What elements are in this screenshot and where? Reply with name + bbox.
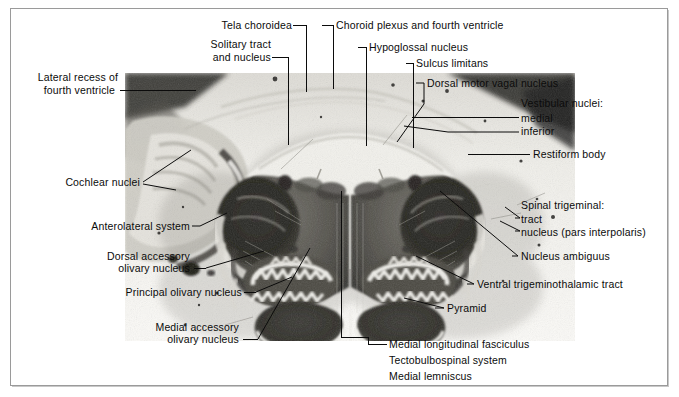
label-anterolateral-system: Anterolateral system: [40, 220, 190, 233]
label-lateral-recess-line2: fourth ventricle: [10, 84, 115, 97]
label-dorsal-accessory-line1: Dorsal accessory: [44, 250, 190, 263]
label-restiform-body: Restiform body: [533, 148, 606, 161]
label-dorsal-motor-vagal-nucleus: Dorsal motor vagal nucleus: [427, 77, 558, 90]
label-ventral-trigeminothalamic-tract: Ventral trigeminothalamic tract: [477, 278, 623, 291]
label-lateral-recess-line1: Lateral recess of: [10, 71, 118, 84]
label-tela-choroidea: Tela choroidea: [150, 19, 292, 32]
label-principal-olivary-nucleus: Principal olivary nucleus: [44, 286, 242, 299]
label-sulcus-limitans: Sulcus limitans: [416, 57, 488, 70]
label-pyramid: Pyramid: [447, 302, 487, 315]
specimen-photograph: [125, 73, 575, 341]
label-vestibular-inferior: inferior: [521, 125, 554, 138]
label-spinal-trigeminal-tract: tract: [521, 213, 542, 226]
label-choroid-plexus: Choroid plexus and fourth ventricle: [336, 19, 504, 32]
label-medial-accessory-line1: Medial accessory: [90, 321, 239, 334]
label-dorsal-accessory-line2: olivary nucleus: [44, 262, 190, 275]
label-spinal-trigeminal-nucleus: nucleus (pars interpolaris): [521, 226, 646, 239]
label-hypoglossal-nucleus: Hypoglossal nucleus: [369, 41, 468, 54]
label-vestibular-nuclei-header: Vestibular nuclei:: [521, 97, 603, 109]
label-nucleus-ambiguus: Nucleus ambiguus: [521, 250, 610, 263]
label-medial-longitudinal-fasciculus: Medial longitudinal fasciculus: [389, 338, 530, 351]
label-solitary-tract-line1: Solitary tract: [140, 38, 271, 51]
anatomical-plate: Tela choroidea Solitary tract and nucleu…: [0, 0, 679, 397]
label-vestibular-medial: medial: [521, 112, 553, 125]
label-medial-accessory-line2: olivary nucleus: [90, 333, 239, 346]
label-spinal-trigeminal-header: Spinal trigeminal:: [521, 199, 604, 211]
label-solitary-tract-line2: and nucleus: [140, 51, 271, 64]
label-cochlear-nuclei: Cochlear nuclei: [18, 176, 140, 189]
label-tectobulbospinal-system: Tectobulbospinal system: [389, 354, 507, 367]
label-medial-lemniscus: Medial lemniscus: [389, 370, 472, 383]
